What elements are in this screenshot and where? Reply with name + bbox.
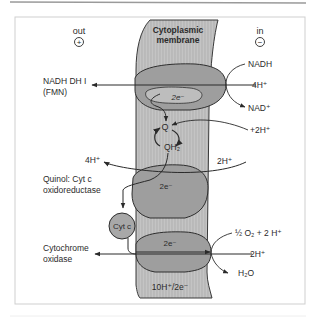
nadh-dh-label-line1: NADH DH I xyxy=(43,76,86,86)
nad-label: NAD⁺ xyxy=(248,103,270,113)
minus-sign: − xyxy=(258,38,263,47)
o2-label: ½ O₂ + 2 H⁺ xyxy=(235,228,282,238)
h4-in-label: 4H⁺ xyxy=(252,80,267,90)
h2o-label: H₂O xyxy=(238,268,254,278)
nadh-dh-electrons: 2e⁻ xyxy=(170,93,184,102)
complex-quinol-cytc xyxy=(132,165,208,218)
h2-in-c3-label: 2H⁺ xyxy=(217,156,232,166)
cyt-oxidase-label-line1: Cytochrome xyxy=(43,243,89,253)
top-rule xyxy=(10,2,306,3)
electron-transport-diagram: out + in − Cytoplasmic membrane NADH DH … xyxy=(0,0,316,318)
q-label: Q xyxy=(161,122,168,132)
quinol-cytc-label-line1: Quinol: Cyt c xyxy=(43,174,92,184)
quinol-cytc-label-line2: oxidoreductase xyxy=(43,185,101,195)
h2-plus-label: +2H⁺ xyxy=(250,125,270,135)
cyt-oxidase-label-line2: oxidase xyxy=(43,254,73,264)
membrane-label-line1: Cytoplasmic xyxy=(153,25,204,35)
h2-in-c4-label: 2H⁺ xyxy=(250,249,265,259)
nadh-dh-label-line2: (FMN) xyxy=(43,87,67,97)
plus-sign: + xyxy=(77,38,82,47)
membrane-label-line2: membrane xyxy=(157,35,200,45)
stoichiometry-label: 10H⁺/2e⁻ xyxy=(152,282,188,292)
cytc-label: Cyt c xyxy=(113,222,131,231)
h4-out-label: 4H⁺ xyxy=(85,155,100,165)
in-label: in xyxy=(256,26,263,36)
complex-nadh-dh xyxy=(135,64,226,110)
out-label: out xyxy=(73,26,86,36)
cyt-oxidase-electrons: 2e⁻ xyxy=(163,239,176,248)
quinol-cytc-electrons: 2e⁻ xyxy=(159,182,172,191)
nadh-label: NADH xyxy=(248,59,272,69)
